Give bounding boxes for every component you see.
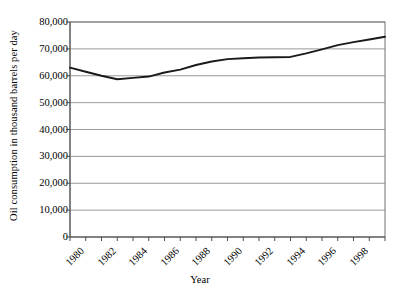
chart-figure: Oil consumption in thousand barrels per … <box>0 0 400 297</box>
plot-area <box>0 0 400 297</box>
x-axis-title: Year <box>0 274 400 285</box>
